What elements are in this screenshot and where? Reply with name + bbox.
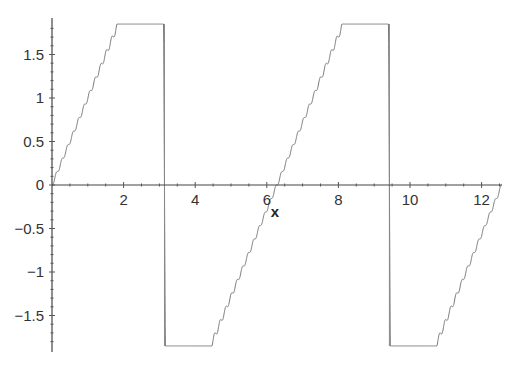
- axes: [52, 18, 502, 352]
- x-axis-label: x: [271, 203, 280, 220]
- x-tick-label: 12: [473, 191, 490, 208]
- x-tick-label: 2: [119, 191, 127, 208]
- x-tick-label: 4: [191, 191, 199, 208]
- plot-canvas: 246810121.510.50−0.5−1−1.5 x: [0, 0, 515, 376]
- x-tick-label: 8: [334, 191, 342, 208]
- y-tick-label: −1.5: [14, 307, 44, 324]
- x-tick-label: 6: [263, 191, 271, 208]
- y-tick-label: 1.5: [23, 46, 44, 63]
- y-tick-label: 0.5: [23, 133, 44, 150]
- y-tick-label: 1: [36, 89, 44, 106]
- y-tick-label: −0.5: [14, 220, 44, 237]
- x-tick-label: 10: [402, 191, 419, 208]
- y-tick-label: −1: [27, 263, 44, 280]
- y-tick-label: 0: [36, 176, 44, 193]
